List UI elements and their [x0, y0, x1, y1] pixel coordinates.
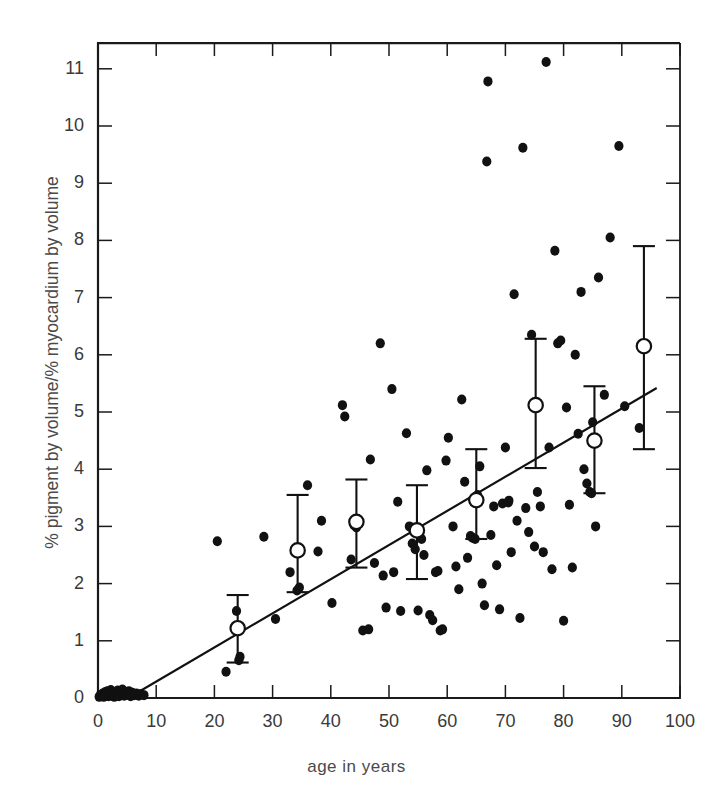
mean-errorbar-group: [227, 246, 655, 662]
mean-marker: [469, 493, 483, 507]
data-points-group: [95, 57, 644, 702]
data-point: [515, 613, 524, 623]
data-point: [556, 336, 565, 346]
data-point: [588, 417, 597, 427]
mean-marker: [290, 543, 304, 557]
data-point: [340, 412, 349, 422]
data-point: [486, 530, 495, 540]
data-point: [303, 480, 312, 490]
data-point: [571, 350, 580, 360]
data-point: [530, 541, 539, 551]
data-point: [635, 423, 644, 433]
data-point: [396, 606, 405, 616]
data-point: [614, 141, 623, 151]
data-point: [562, 402, 571, 412]
data-point: [422, 465, 431, 475]
axes-group: [98, 43, 680, 698]
data-point: [393, 497, 402, 507]
data-point: [539, 547, 548, 557]
data-point: [591, 521, 600, 531]
data-point: [389, 567, 398, 577]
data-point: [536, 501, 545, 511]
mean-marker: [528, 398, 542, 412]
data-point: [313, 547, 322, 557]
data-point: [527, 330, 536, 340]
data-point: [438, 624, 447, 634]
data-point: [521, 503, 530, 513]
data-point: [271, 614, 280, 624]
data-point: [482, 156, 491, 166]
data-point: [454, 584, 463, 594]
data-point: [232, 606, 241, 616]
scatter-plot-canvas: [0, 0, 713, 795]
data-point: [471, 534, 480, 544]
data-point: [495, 604, 504, 614]
data-point: [504, 496, 513, 506]
data-point: [402, 428, 411, 438]
data-point: [285, 567, 294, 577]
data-point: [475, 461, 484, 471]
data-point: [235, 652, 244, 662]
figure-container: % pigment by volume/% myocardium by volu…: [0, 0, 713, 795]
data-point: [457, 394, 466, 404]
data-point: [576, 287, 585, 297]
data-point: [381, 603, 390, 613]
data-point: [547, 564, 556, 574]
data-point: [317, 516, 326, 526]
data-point: [579, 464, 588, 474]
data-point: [463, 553, 472, 563]
data-point: [414, 605, 423, 615]
data-point: [582, 479, 591, 489]
axis-frame-left-top: [98, 43, 680, 698]
data-point: [542, 57, 551, 67]
data-point: [366, 454, 375, 464]
data-point: [444, 433, 453, 443]
data-point: [379, 571, 388, 581]
data-point: [507, 547, 516, 557]
mean-marker: [349, 515, 363, 529]
data-point: [259, 532, 268, 542]
data-point: [594, 273, 603, 283]
data-point: [501, 442, 510, 452]
mean-marker: [230, 621, 244, 635]
data-point: [492, 560, 501, 570]
data-point: [221, 667, 230, 677]
data-point: [524, 527, 533, 537]
mean-marker: [637, 339, 651, 353]
data-point: [411, 544, 420, 554]
data-point: [139, 690, 148, 700]
data-point: [347, 555, 356, 565]
data-point: [376, 338, 385, 348]
data-point: [483, 76, 492, 86]
data-point: [518, 143, 527, 153]
data-point: [480, 600, 489, 610]
data-point: [600, 390, 609, 400]
mean-marker: [587, 433, 601, 447]
data-point: [433, 566, 442, 576]
data-point: [441, 456, 450, 466]
data-point: [213, 536, 222, 546]
data-point: [428, 615, 437, 625]
data-point: [448, 521, 457, 531]
data-point: [550, 246, 559, 256]
data-point: [370, 558, 379, 568]
data-point: [364, 624, 373, 634]
data-point: [533, 487, 542, 497]
data-point: [544, 442, 553, 452]
data-point: [620, 401, 629, 411]
data-point: [338, 400, 347, 410]
data-point: [489, 501, 498, 511]
axis-frame-bottom-right: [98, 43, 680, 698]
data-point: [451, 561, 460, 571]
data-point: [295, 583, 304, 593]
data-point: [606, 233, 615, 243]
data-point: [568, 563, 577, 573]
mean-marker: [410, 523, 424, 537]
data-point: [510, 289, 519, 299]
data-point: [460, 477, 469, 487]
data-point: [419, 550, 428, 560]
data-point: [565, 500, 574, 510]
data-point: [478, 579, 487, 589]
data-point: [574, 429, 583, 439]
data-point: [327, 598, 336, 608]
